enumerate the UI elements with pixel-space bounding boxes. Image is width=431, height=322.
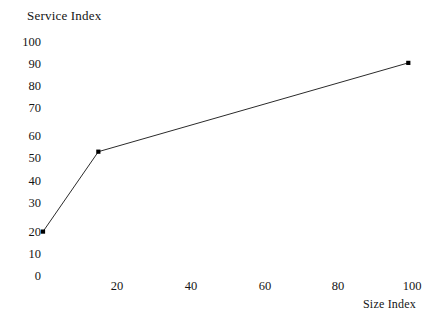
data-series-line bbox=[43, 63, 408, 232]
data-point-marker bbox=[96, 150, 100, 154]
data-point-marker bbox=[406, 61, 410, 65]
plot-area bbox=[0, 0, 431, 322]
line-chart: Service Index 100 90 80 70 60 50 40 30 2… bbox=[0, 0, 431, 322]
data-point-markers bbox=[41, 61, 411, 234]
data-point-marker bbox=[41, 230, 45, 234]
